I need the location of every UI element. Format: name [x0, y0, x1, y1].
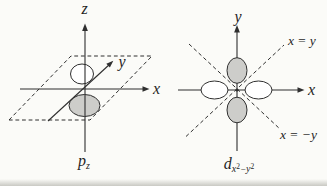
pz-y-axis-label: y	[118, 54, 125, 70]
pz-x-axis-arrowhead	[143, 86, 150, 91]
x-equals-minus-y-label: x = −y	[280, 128, 317, 142]
pz-upper-lobe	[71, 64, 94, 84]
d-right-lobe	[245, 81, 272, 99]
d-y-axis-arrowhead	[234, 25, 240, 33]
pz-z-axis-label: z	[81, 1, 87, 17]
d-y-axis-label: y	[234, 9, 241, 25]
pz-caption-subscript: z	[86, 160, 90, 171]
figure-canvas	[0, 0, 327, 186]
orbital-diagrams-figure: z x y pz y x x = y x = −y dx2−y2	[0, 0, 327, 186]
pz-x-axis-label: x	[153, 81, 160, 97]
pz-z-axis-arrowhead	[82, 24, 88, 32]
x-equals-y-label: x = y	[288, 34, 316, 48]
pz-orbital-diagram	[9, 24, 152, 153]
d-left-lobe	[201, 81, 228, 99]
pz-caption-base: p	[78, 152, 86, 169]
d-caption-sup-2: 2	[250, 161, 254, 170]
pz-caption: pz	[78, 153, 90, 171]
d-caption-base: d	[224, 155, 232, 172]
d-caption-subscript: x2−y2	[232, 163, 254, 174]
d-x-axis-arrowhead	[298, 87, 305, 92]
d-upper-lobe	[227, 58, 247, 84]
d-lower-lobe	[227, 97, 247, 123]
origin-node	[235, 88, 238, 91]
dx2y2-caption: dx2−y2	[224, 156, 254, 174]
d-x-axis-label: x	[308, 82, 315, 98]
